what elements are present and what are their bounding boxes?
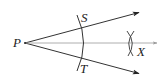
label-s: S bbox=[81, 10, 88, 25]
label-t: T bbox=[80, 61, 88, 76]
point-p-dot bbox=[24, 42, 26, 44]
label-x: X bbox=[136, 44, 146, 59]
label-p: P bbox=[12, 35, 21, 50]
angle-bisector-diagram: P S T X bbox=[0, 0, 166, 78]
